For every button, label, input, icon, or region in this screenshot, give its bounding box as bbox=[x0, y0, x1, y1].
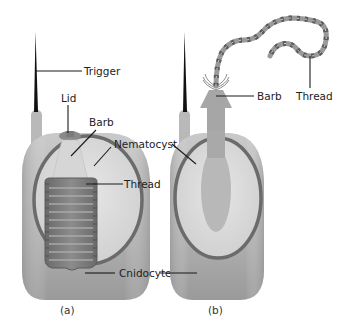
caption-a: (a) bbox=[60, 304, 75, 316]
nematocyst-diagram: Trigger Lid Barb Nematocyst Thread Cnido… bbox=[0, 0, 340, 327]
panel-a: Trigger Lid Barb Nematocyst Thread Cnido… bbox=[22, 32, 177, 316]
label-trigger: Trigger bbox=[83, 65, 121, 77]
label-barb-a: Barb bbox=[89, 116, 114, 128]
everted-tube-b bbox=[201, 148, 231, 232]
panel-b: Barb Thread (b) bbox=[160, 18, 333, 316]
thread-coil-a bbox=[45, 178, 97, 270]
caption-b: (b) bbox=[208, 304, 223, 316]
label-thread-b: Thread bbox=[295, 90, 333, 102]
label-nematocyst: Nematocyst bbox=[114, 138, 177, 150]
label-lid: Lid bbox=[61, 92, 76, 104]
trigger-b bbox=[183, 32, 187, 112]
label-barb-b: Barb bbox=[257, 90, 282, 102]
trigger-a bbox=[34, 32, 38, 112]
label-thread-a: Thread bbox=[123, 178, 161, 190]
